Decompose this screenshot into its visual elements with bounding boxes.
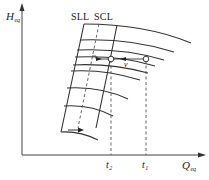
- y-axis-symbol: H: [6, 10, 14, 22]
- t1-label: t1: [142, 160, 148, 171]
- operating-point-t2: [108, 56, 114, 62]
- t2-label: t2: [106, 160, 112, 171]
- curve-5: [73, 65, 148, 73]
- arrow-right-icon: [78, 128, 84, 133]
- curve-6: [71, 71, 140, 80]
- y-axis: [20, 3, 25, 155]
- sll-label: SLL: [71, 12, 89, 22]
- x-axis: [22, 153, 206, 158]
- diagram-canvas: [0, 0, 209, 180]
- x-axis-arrow-icon: [198, 153, 206, 158]
- curve-9: [61, 132, 98, 140]
- x-axis-symbol: Q: [182, 159, 190, 171]
- x-axis-subscript: eq: [190, 166, 196, 172]
- velocity-label: v: [124, 61, 128, 69]
- y-axis-subscript: eq: [14, 17, 20, 23]
- y-axis-arrow-icon: [20, 3, 25, 11]
- t2-subscript: 2: [109, 165, 112, 171]
- y-axis-label: Heq: [6, 11, 20, 23]
- x-axis-label: Qeq: [182, 160, 196, 172]
- curve-8: [64, 106, 113, 116]
- operating-point-t1: [143, 56, 149, 62]
- scl-label: SCL: [94, 12, 113, 22]
- arrow-left-icon: [96, 57, 102, 61]
- t1-subscript: 1: [145, 165, 148, 171]
- curve-7: [67, 88, 128, 99]
